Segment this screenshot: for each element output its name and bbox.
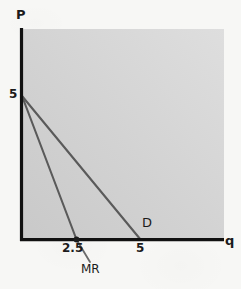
y-axis-label: P (16, 8, 26, 21)
demand-curve-label: D (142, 216, 152, 229)
x-axis-label: q (225, 234, 234, 247)
marginal-revenue-curve-label: MR (81, 263, 100, 275)
y-tick-label-5: 5 (9, 88, 17, 100)
figure-canvas: P q 5 2.5 5 D MR (0, 0, 241, 289)
x-tick-label-2point5: 2.5 (62, 242, 83, 254)
x-tick-label-5: 5 (136, 242, 144, 254)
plot-graphic (0, 0, 241, 289)
plot-area-background (22, 29, 224, 240)
